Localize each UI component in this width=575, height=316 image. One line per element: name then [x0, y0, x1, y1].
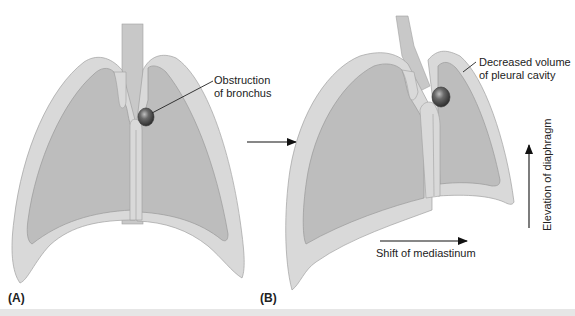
panel-b: Decreased volume of pleural cavity Shift… [260, 16, 571, 305]
panel-a: Obstruction of bronchus (A) [8, 24, 272, 305]
bottom-strip [0, 309, 575, 316]
bronchus-obstruction [138, 108, 154, 126]
label-obstruction-line1: Obstruction [214, 74, 270, 86]
label-shift-mediastinum: Shift of mediastinum [376, 247, 476, 259]
label-obstruction-line2: of bronchus [214, 87, 272, 99]
label-elevation-diaphragm: Elevation of diaphragm [541, 118, 553, 231]
bronchus-obstruction [432, 87, 450, 107]
panel-label-a: (A) [8, 291, 25, 305]
label-decreased-volume-line1: Decreased volume [479, 56, 571, 68]
label-decreased-volume-line2: of pleural cavity [479, 69, 556, 81]
lung-collapse-diagram: Obstruction of bronchus (A) Decreased vo… [0, 0, 575, 316]
panel-label-b: (B) [260, 291, 277, 305]
